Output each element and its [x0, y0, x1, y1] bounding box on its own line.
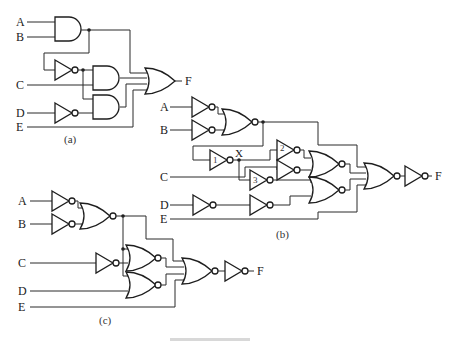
caption-b: (b) [276, 229, 289, 240]
input-label-a-D: D [16, 107, 25, 119]
circuit-a [27, 17, 182, 127]
input-label-c-D: D [18, 285, 27, 297]
input-label-a-C: C [16, 79, 24, 91]
figure-caption-bar [170, 338, 250, 341]
output-label-a-F: F [185, 75, 192, 87]
circuit-drawing [0, 0, 456, 344]
gate-number-2: 2 [280, 144, 285, 153]
input-label-b-E: E [160, 213, 167, 225]
input-label-c-E: E [18, 301, 25, 313]
output-label-b-F: F [435, 170, 442, 182]
input-label-c-B: B [18, 218, 26, 230]
input-label-c-A: A [18, 195, 27, 207]
input-label-a-E: E [16, 121, 23, 133]
node-label-X: X [235, 147, 243, 159]
input-label-b-A: A [160, 101, 169, 113]
gate-number-1: 1 [213, 156, 218, 165]
input-label-c-C: C [18, 257, 26, 269]
input-label-b-D: D [160, 199, 169, 211]
input-label-b-C: C [160, 171, 168, 183]
output-label-c-F: F [257, 265, 264, 277]
input-label-a-A: A [16, 16, 25, 28]
circuit-c [30, 191, 254, 307]
input-label-a-B: B [16, 31, 24, 43]
gate-number-3: 3 [253, 176, 258, 185]
caption-c: (c) [99, 315, 111, 326]
caption-a: (a) [64, 134, 76, 145]
circuit-figure: A B C D E F (a) A B C D E F X 1 2 3 (b) … [0, 0, 456, 344]
input-label-b-B: B [160, 124, 168, 136]
circuit-b [170, 97, 432, 219]
